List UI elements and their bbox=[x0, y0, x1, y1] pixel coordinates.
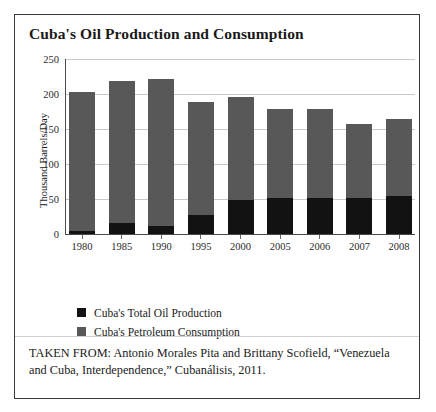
bar-segment-consumption bbox=[386, 119, 412, 196]
x-axis-tick bbox=[386, 235, 412, 240]
legend-swatch-icon bbox=[77, 308, 86, 317]
bar-segment-consumption bbox=[307, 109, 333, 198]
bar-segment-production bbox=[307, 198, 333, 234]
x-axis-tick-label: 1985 bbox=[109, 241, 135, 252]
bar-segment-consumption bbox=[346, 124, 372, 198]
bar-segment-production bbox=[267, 198, 293, 234]
caption-divider bbox=[15, 336, 419, 337]
bar-segment-production bbox=[346, 198, 372, 234]
y-axis-tick-label: 0 bbox=[25, 229, 59, 240]
bar-segment-production bbox=[109, 223, 135, 234]
bar-group bbox=[69, 59, 95, 234]
bar-segment-consumption bbox=[109, 81, 135, 222]
y-axis-tick-label: 150 bbox=[25, 124, 59, 135]
chart-plot-area: Thousand Barrels/Day 050100150200250 198… bbox=[15, 59, 419, 289]
bar-segment-consumption bbox=[69, 92, 95, 231]
bar-segment-consumption bbox=[188, 102, 214, 215]
figure-title: Cuba's Oil Production and Consumption bbox=[29, 25, 304, 43]
x-axis-tick-label: 2008 bbox=[386, 241, 412, 252]
x-axis-tick-label: 1980 bbox=[69, 241, 95, 252]
bar-group bbox=[386, 59, 412, 234]
bar-group bbox=[267, 59, 293, 234]
bar-group bbox=[346, 59, 372, 234]
figure-caption: TAKEN FROM: Antonio Morales Pita and Bri… bbox=[29, 345, 407, 379]
x-axis-tick bbox=[267, 235, 293, 240]
bar-segment-consumption bbox=[267, 109, 293, 198]
x-axis-tick-label: 2005 bbox=[267, 241, 293, 252]
y-axis-tick-label: 250 bbox=[25, 54, 59, 65]
x-axis-tick bbox=[69, 235, 95, 240]
bar-group bbox=[228, 59, 254, 234]
x-axis-tick bbox=[148, 235, 174, 240]
bar-series-container bbox=[66, 59, 415, 234]
bar-segment-consumption bbox=[228, 97, 254, 201]
x-axis-tick-label: 2007 bbox=[346, 241, 372, 252]
bar-group bbox=[307, 59, 333, 234]
legend-item: Cuba's Total Oil Production bbox=[77, 303, 240, 322]
bar-segment-production bbox=[69, 231, 95, 234]
x-axis-tick-label: 2000 bbox=[228, 241, 254, 252]
x-axis-tick bbox=[109, 235, 135, 240]
x-axis-tick-labels: 198019851990199520002005200620072008 bbox=[66, 241, 415, 252]
x-axis-tick-label: 2006 bbox=[307, 241, 333, 252]
bar-segment-consumption bbox=[148, 79, 174, 226]
y-axis-tick-label: 50 bbox=[25, 194, 59, 205]
figure-frame: Cuba's Oil Production and Consumption Th… bbox=[14, 14, 420, 399]
legend-item: Cuba's Petroleum Consumption bbox=[77, 322, 240, 341]
x-axis-tick bbox=[307, 235, 333, 240]
y-axis-tick-label: 100 bbox=[25, 159, 59, 170]
bar-segment-production bbox=[148, 226, 174, 234]
bar-group bbox=[148, 59, 174, 234]
bar-segment-production bbox=[228, 200, 254, 234]
legend-item-label: Cuba's Total Oil Production bbox=[94, 307, 222, 319]
bar-group bbox=[188, 59, 214, 234]
x-axis-tick bbox=[188, 235, 214, 240]
x-axis-ticks bbox=[66, 235, 415, 240]
x-axis-tick bbox=[346, 235, 372, 240]
legend-swatch-icon bbox=[77, 327, 86, 336]
bar-segment-production bbox=[386, 196, 412, 234]
x-axis-tick-label: 1990 bbox=[148, 241, 174, 252]
bar-group bbox=[109, 59, 135, 234]
y-axis-tick-labels: 050100150200250 bbox=[25, 59, 59, 289]
bar-segment-production bbox=[188, 215, 214, 234]
x-axis-tick bbox=[228, 235, 254, 240]
x-axis-tick-label: 1995 bbox=[188, 241, 214, 252]
y-axis-tick-label: 200 bbox=[25, 89, 59, 100]
